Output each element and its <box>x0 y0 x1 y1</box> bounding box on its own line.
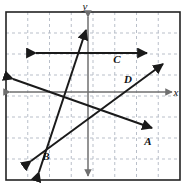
line-label-a: A <box>143 135 151 147</box>
x-axis-label: x <box>173 86 179 98</box>
line-label-b: B <box>41 150 49 162</box>
coordinate-grid-figure: x y ABCD <box>0 0 186 189</box>
y-axis-label: y <box>82 0 88 12</box>
line-label-c: C <box>113 53 121 65</box>
plot-background <box>0 0 186 189</box>
line-label-d: D <box>123 73 132 85</box>
graph-canvas: x y ABCD <box>0 0 186 189</box>
